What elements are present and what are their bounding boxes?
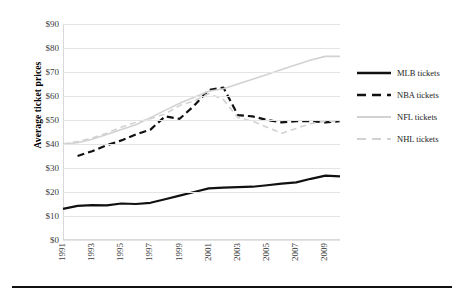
x-tick-label: 1999	[174, 232, 184, 272]
legend-item-nhl-tickets[interactable]: NHL tickets	[357, 128, 461, 150]
x-tick-label: 1991	[57, 232, 67, 272]
legend-item-nba-tickets[interactable]: NBA tickets	[357, 84, 461, 106]
legend-swatch-icon	[357, 68, 391, 78]
bottom-divider-rule	[12, 286, 452, 288]
x-tick-label: 1997	[144, 232, 154, 272]
x-tick-label: 2009	[319, 232, 329, 272]
x-tick-label: 2005	[261, 232, 271, 272]
legend-swatch-icon	[357, 112, 391, 122]
legend-label: NHL tickets	[391, 134, 438, 144]
legend-swatch-icon	[357, 134, 391, 144]
chart-legend: MLB ticketsNBA ticketsNFL ticketsNHL tic…	[357, 62, 461, 150]
legend-item-mlb-tickets[interactable]: MLB tickets	[357, 62, 461, 84]
legend-item-nfl-tickets[interactable]: NFL tickets	[357, 106, 461, 128]
chart-figure: Average ticket prices $90$80$70$60$50$40…	[0, 0, 463, 295]
x-tick-label: 1993	[86, 232, 96, 272]
legend-label: NBA tickets	[391, 90, 439, 100]
legend-label: MLB tickets	[391, 68, 440, 78]
x-tick-label: 2001	[203, 232, 213, 272]
x-tick-label: 2007	[290, 232, 300, 272]
x-tick-label: 2003	[232, 232, 242, 272]
legend-swatch-icon	[357, 90, 391, 100]
x-tick-label: 1995	[115, 232, 125, 272]
legend-label: NFL tickets	[391, 112, 437, 122]
